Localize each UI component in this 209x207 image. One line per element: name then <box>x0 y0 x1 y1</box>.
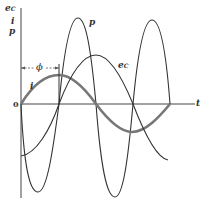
origin-label: 0 <box>13 100 19 108</box>
curve-label-i: i <box>30 82 33 91</box>
y-label-ec: eC <box>5 4 16 13</box>
x-axis-label: t <box>196 99 200 108</box>
p-curve <box>21 18 170 197</box>
curve-label-ec-sub: C <box>124 62 129 69</box>
phi-arrow-right-icon <box>55 67 59 70</box>
y-label-p: p <box>9 27 15 36</box>
curve-label-ec: eC <box>118 61 129 70</box>
phi-arrow-left-icon <box>21 67 25 70</box>
phi-label: ϕ <box>36 62 43 72</box>
curve-label-p: p <box>89 18 95 27</box>
y-label-c-sub: C <box>11 5 16 12</box>
ec-curve <box>21 55 168 160</box>
y-label-i: i <box>11 17 14 26</box>
waveform-diagram <box>0 0 209 207</box>
